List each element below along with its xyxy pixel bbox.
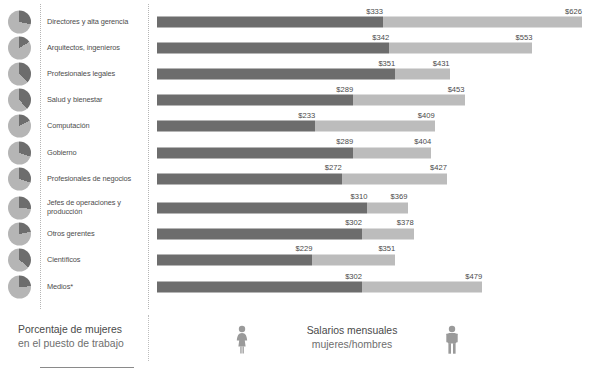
bar-segment-men (395, 69, 449, 80)
category-label: Medios* (47, 282, 145, 292)
stacked-bar: $289$404 (157, 147, 431, 158)
male-figure-icon (444, 325, 460, 359)
value-label-men: $453 (448, 84, 465, 93)
category-label: Directores y alta gerencia (47, 17, 145, 27)
bar-segment-men (353, 95, 464, 106)
bar-segment-women (157, 202, 367, 213)
chart-row: Arquitectos, ingenieros$342$553 (0, 34, 603, 62)
value-label-women: $351 (378, 58, 395, 67)
bar-segment-women (157, 95, 353, 106)
pie-slice-group (8, 37, 31, 60)
chart-row: Gobierno$289$404 (0, 139, 603, 167)
pie-slice-group (8, 222, 31, 245)
pie-slice-group (8, 248, 31, 271)
women-share-pie-chart (8, 141, 31, 164)
value-label-men: $351 (378, 244, 395, 253)
value-label-men: $479 (465, 271, 482, 280)
pie-slice-group (8, 63, 31, 86)
pie-slice-group (8, 196, 31, 219)
value-label-men: $626 (565, 6, 582, 15)
stacked-bar: $229$351 (157, 254, 395, 265)
stacked-bar: $310$369 (157, 202, 408, 213)
women-share-pie-chart (8, 11, 31, 34)
category-label: Otros gerentes (47, 229, 145, 239)
bar-segment-women (157, 121, 315, 132)
chart-legend: Porcentaje de mujeres en el puesto de tr… (0, 315, 603, 377)
bar-segment-men (362, 282, 482, 293)
women-share-pie-chart (8, 276, 31, 299)
category-label: Jefes de operaciones y producción (47, 198, 145, 217)
value-label-women: $342 (372, 32, 389, 41)
stacked-bar: $342$553 (157, 43, 532, 54)
category-label: Profesionales legales (47, 69, 145, 79)
pie-slice-group (8, 115, 31, 138)
women-share-pie-chart (8, 196, 31, 219)
bar-segment-women (157, 173, 342, 184)
value-label-women: $289 (336, 137, 353, 146)
women-share-pie-chart (8, 89, 31, 112)
category-label: Profesionales de negocios (47, 174, 145, 184)
category-label: Gobierno (47, 148, 145, 158)
pie-slice-group (8, 11, 31, 34)
category-label: Computación (47, 122, 145, 132)
bar-segment-men (353, 147, 431, 158)
bar-segment-women (157, 43, 389, 54)
bar-segment-men (389, 43, 532, 54)
value-label-men: $404 (414, 137, 431, 146)
value-label-women: $333 (366, 6, 383, 15)
chart-row: Jefes de operaciones y producción$310$36… (0, 194, 603, 222)
legend-percentage-line2: en el puesto de trabajo (18, 337, 168, 351)
value-label-women: $302 (345, 271, 362, 280)
bar-segment-women (157, 254, 312, 265)
legend-underline-rule (40, 367, 134, 368)
legend-salary-line2: mujeres/hombres (272, 338, 432, 352)
legend-salary-line1: Salarios mensuales (272, 324, 432, 338)
value-label-men: $409 (418, 110, 435, 119)
stacked-bar: $233$409 (157, 121, 435, 132)
bar-segment-women (157, 282, 362, 293)
women-share-pie-chart (8, 37, 31, 60)
chart-row: Profesionales legales$351$431 (0, 60, 603, 88)
female-figure-icon (234, 325, 250, 359)
women-share-pie-chart (8, 167, 31, 190)
value-label-men: $369 (391, 192, 408, 201)
bar-segment-women (157, 228, 362, 239)
bar-segment-men (362, 228, 414, 239)
legend-percentage-line1: Porcentaje de mujeres (18, 323, 168, 337)
category-label: Arquitectos, ingenieros (47, 43, 145, 53)
stacked-bar: $302$378 (157, 228, 414, 239)
stacked-bar: $351$431 (157, 69, 450, 80)
chart-row: Computación$233$409 (0, 112, 603, 140)
stacked-bar: $272$427 (157, 173, 447, 184)
pie-slice-group (8, 276, 31, 299)
value-label-men: $431 (433, 58, 450, 67)
stacked-bar: $333$626 (157, 17, 582, 28)
chart-row: Científicos$229$351 (0, 246, 603, 274)
bar-segment-men (367, 202, 407, 213)
salary-comparison-chart: Directores y alta gerencia$333$626Arquit… (0, 0, 603, 315)
bar-segment-women (157, 17, 383, 28)
bar-segment-men (383, 17, 582, 28)
legend-percentage-block: Porcentaje de mujeres en el puesto de tr… (18, 323, 168, 351)
pie-slice-group (8, 141, 31, 164)
legend-salary-block: Salarios mensuales mujeres/hombres (272, 324, 432, 352)
bar-segment-men (342, 173, 447, 184)
value-label-women: $310 (351, 192, 368, 201)
value-label-men: $378 (397, 218, 414, 227)
value-label-men: $553 (516, 32, 533, 41)
value-label-women: $272 (325, 163, 342, 172)
value-label-women: $229 (296, 244, 313, 253)
value-label-women: $233 (298, 110, 315, 119)
bar-segment-men (315, 121, 434, 132)
women-share-pie-chart (8, 63, 31, 86)
chart-row: Directores y alta gerencia$333$626 (0, 8, 603, 36)
pie-slice-group (8, 89, 31, 112)
bar-segment-men (312, 254, 395, 265)
chart-row: Profesionales de negocios$272$427 (0, 165, 603, 193)
chart-row: Medios*$302$479 (0, 273, 603, 301)
value-label-men: $427 (430, 163, 447, 172)
bar-segment-women (157, 69, 395, 80)
category-label: Salud y bienestar (47, 96, 145, 106)
women-share-pie-chart (8, 248, 31, 271)
value-label-women: $289 (336, 84, 353, 93)
